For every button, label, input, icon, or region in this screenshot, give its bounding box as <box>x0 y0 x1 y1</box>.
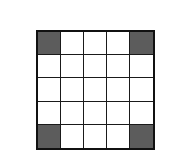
grid-cell <box>107 55 130 78</box>
grid-cell <box>84 78 107 101</box>
grid-cell <box>61 55 84 78</box>
grid-cell <box>61 102 84 125</box>
shaded-cell <box>38 32 61 55</box>
grid-cell <box>38 102 61 125</box>
grid-cell <box>130 78 153 101</box>
grid-cell <box>61 32 84 55</box>
grid-cell <box>61 78 84 101</box>
grid-cell <box>107 102 130 125</box>
grid-cell <box>84 125 107 148</box>
shaded-cell <box>130 32 153 55</box>
grid-cell <box>38 78 61 101</box>
grid-cell <box>84 32 107 55</box>
grid-cell <box>38 55 61 78</box>
grid-cell <box>107 32 130 55</box>
grid-cell <box>130 55 153 78</box>
grid-cell <box>107 125 130 148</box>
shaded-cell <box>38 125 61 148</box>
grid-cell <box>84 55 107 78</box>
grid-cell <box>130 102 153 125</box>
grid-5x5 <box>36 30 155 150</box>
shaded-cell <box>130 125 153 148</box>
grid-cell <box>61 125 84 148</box>
grid-cell <box>107 78 130 101</box>
grid-cell <box>84 102 107 125</box>
